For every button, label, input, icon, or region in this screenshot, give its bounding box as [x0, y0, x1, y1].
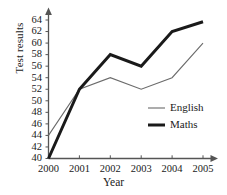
x-tick-label: 2003	[124, 164, 158, 175]
data-series-group	[49, 22, 204, 159]
legend-swatches-group	[148, 108, 165, 125]
y-axis-title: Test results	[11, 3, 27, 93]
y-tick-label: 46	[20, 119, 42, 130]
y-tick-label: 42	[20, 142, 42, 153]
tick-marks-group	[46, 20, 204, 159]
y-tick-label: 50	[20, 96, 42, 107]
x-axis-title: Year	[0, 176, 227, 188]
x-tick-label: 2001	[62, 164, 96, 175]
x-tick-label: 2005	[186, 164, 220, 175]
y-tick-label: 48	[20, 107, 42, 118]
legend-label-english: English	[170, 102, 204, 113]
x-tick-label: 2004	[155, 164, 189, 175]
y-tick-label: 44	[20, 130, 42, 141]
legend-label-maths: Maths	[170, 119, 198, 130]
y-axis-arrowhead	[45, 8, 52, 16]
series-line-maths	[49, 22, 204, 159]
x-axis-arrowhead	[211, 155, 219, 162]
axes-group	[45, 8, 218, 162]
x-tick-label: 2002	[93, 164, 127, 175]
line-chart: 40424446485052545658606264 2000200120022…	[0, 0, 227, 195]
x-tick-label: 2000	[32, 164, 66, 175]
